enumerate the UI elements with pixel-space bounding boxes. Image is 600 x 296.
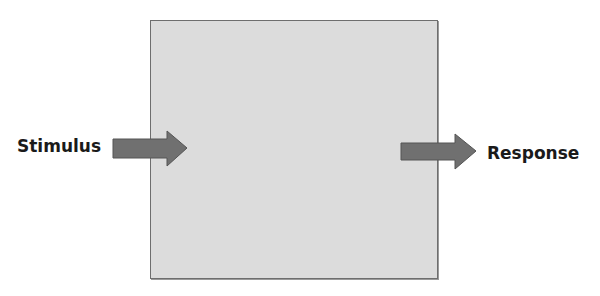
black-box	[150, 20, 438, 279]
stimulus-arrow-icon	[112, 129, 190, 169]
stimulus-label: Stimulus	[17, 136, 101, 156]
response-label: Response	[487, 143, 579, 163]
response-arrow-icon	[400, 133, 480, 173]
